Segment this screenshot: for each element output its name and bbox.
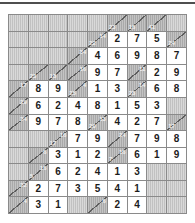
blank-cell <box>167 164 187 181</box>
across-clue-label: 16 <box>40 165 47 171</box>
value-cell[interactable]: 2 <box>108 197 128 214</box>
value-cell[interactable]: 7 <box>108 65 128 82</box>
value-cell[interactable]: 3 <box>108 81 128 98</box>
blank-cell <box>68 32 88 49</box>
down-clue-label: 17 <box>168 123 175 129</box>
value-cell[interactable]: 9 <box>128 48 148 65</box>
value-cell[interactable]: 6 <box>128 148 148 165</box>
clue-cell: 1428 <box>128 81 148 98</box>
blank-cell <box>49 15 69 32</box>
cell-digit: 3 <box>114 84 120 94</box>
cell-digit: 5 <box>154 34 160 44</box>
value-cell[interactable]: 8 <box>68 115 88 132</box>
value-cell[interactable]: 1 <box>147 148 167 165</box>
value-cell[interactable]: 1 <box>128 181 148 198</box>
down-clue-label: 18 <box>50 73 57 79</box>
value-cell[interactable]: 8 <box>167 81 187 98</box>
cell-digit: 9 <box>134 51 140 61</box>
value-cell[interactable]: 1 <box>108 98 128 115</box>
across-clue-label: 6 <box>103 198 106 204</box>
value-cell[interactable]: 6 <box>49 164 69 181</box>
value-cell[interactable]: 8 <box>29 81 49 98</box>
blank-cell <box>29 15 49 32</box>
value-cell[interactable]: 9 <box>29 115 49 132</box>
kakuro-grid: 2316411422275243446987231816971129178942… <box>8 14 187 214</box>
across-clue-label: 14 <box>139 82 146 88</box>
value-cell[interactable]: 7 <box>147 115 167 132</box>
value-cell[interactable]: 9 <box>167 148 187 165</box>
value-cell[interactable]: 6 <box>108 48 128 65</box>
value-cell[interactable]: 3 <box>147 98 167 115</box>
value-cell[interactable]: 2 <box>49 98 69 115</box>
value-cell[interactable]: 5 <box>147 32 167 49</box>
clue-cell: 18 <box>49 65 69 82</box>
value-cell[interactable]: 2 <box>147 65 167 82</box>
value-cell[interactable]: 9 <box>88 65 108 82</box>
down-clue-label: 20 <box>89 123 96 129</box>
clue-cell: 22 <box>9 181 29 198</box>
value-cell[interactable]: 1 <box>88 81 108 98</box>
value-cell[interactable]: 3 <box>68 181 88 198</box>
value-cell[interactable]: 7 <box>68 131 88 148</box>
value-cell[interactable]: 9 <box>49 81 69 98</box>
value-cell[interactable]: 7 <box>128 131 148 148</box>
value-cell[interactable]: 3 <box>128 164 148 181</box>
value-cell[interactable]: 7 <box>128 32 148 49</box>
value-cell[interactable]: 2 <box>128 115 148 132</box>
cell-digit: 7 <box>114 68 120 78</box>
value-cell[interactable]: 4 <box>128 197 148 214</box>
across-clue-label: 24 <box>20 116 27 122</box>
cell-digit: 6 <box>154 84 160 94</box>
value-cell[interactable]: 8 <box>147 48 167 65</box>
value-cell[interactable]: 5 <box>88 181 108 198</box>
value-cell[interactable]: 9 <box>167 65 187 82</box>
value-cell[interactable]: 1 <box>49 197 69 214</box>
blank-cell <box>9 15 29 32</box>
cell-digit: 8 <box>174 84 180 94</box>
value-cell[interactable]: 4 <box>88 48 108 65</box>
cell-digit: 8 <box>154 51 160 61</box>
blank-cell <box>9 65 29 82</box>
cell-digit: 1 <box>55 200 61 210</box>
cell-digit: 5 <box>95 184 101 194</box>
cell-digit: 4 <box>75 101 81 111</box>
value-cell[interactable]: 2 <box>88 148 108 165</box>
value-cell[interactable]: 1 <box>108 164 128 181</box>
down-clue-label: 17 <box>50 140 57 146</box>
value-cell[interactable]: 4 <box>88 164 108 181</box>
value-cell[interactable]: 7 <box>49 115 69 132</box>
value-cell[interactable]: 7 <box>49 181 69 198</box>
cell-digit: 2 <box>114 200 120 210</box>
value-cell[interactable]: 6 <box>29 98 49 115</box>
value-cell[interactable]: 3 <box>49 148 69 165</box>
cell-digit: 9 <box>55 84 61 94</box>
cell-digit: 6 <box>35 101 41 111</box>
value-cell[interactable]: 4 <box>108 115 128 132</box>
value-cell[interactable]: 7 <box>167 48 187 65</box>
value-cell[interactable]: 4 <box>68 98 88 115</box>
value-cell[interactable]: 2 <box>29 181 49 198</box>
value-cell[interactable]: 2 <box>68 164 88 181</box>
value-cell[interactable]: 8 <box>88 98 108 115</box>
blank-cell <box>9 48 29 65</box>
across-clue-label: 24 <box>119 132 126 138</box>
across-clue-label: 11 <box>139 66 145 72</box>
blank-cell <box>68 15 88 32</box>
value-cell[interactable]: 6 <box>147 81 167 98</box>
clue-cell: 11 <box>128 65 148 82</box>
clue-cell: 16 <box>128 15 148 32</box>
across-clue-label: 16 <box>60 132 67 138</box>
value-cell[interactable]: 4 <box>108 181 128 198</box>
value-cell[interactable]: 9 <box>88 131 108 148</box>
cell-digit: 9 <box>174 68 180 78</box>
cell-digit: 4 <box>114 184 120 194</box>
value-cell[interactable]: 3 <box>29 197 49 214</box>
cell-digit: 9 <box>174 150 180 160</box>
value-cell[interactable]: 5 <box>128 98 148 115</box>
blank-cell <box>9 148 29 165</box>
value-cell[interactable]: 8 <box>167 131 187 148</box>
value-cell[interactable]: 2 <box>108 32 128 49</box>
cell-digit: 7 <box>55 117 61 127</box>
value-cell[interactable]: 1 <box>68 148 88 165</box>
value-cell[interactable]: 9 <box>147 131 167 148</box>
